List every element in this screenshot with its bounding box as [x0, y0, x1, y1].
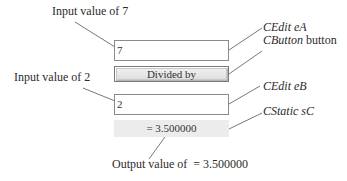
leader-output: [149, 137, 165, 159]
annotation-edit-b-class: CEdit: [263, 79, 291, 93]
annotation-static-c: CStatic sC: [263, 104, 314, 118]
leader-static-c: [229, 113, 262, 129]
annotation-edit-b: CEdit eB: [263, 79, 307, 93]
annotation-output: Output value of = 3.500000: [112, 157, 248, 171]
annotation-static-c-name: sC: [301, 104, 314, 118]
edit-a-field[interactable]: 7: [114, 40, 229, 61]
annotation-button-name: button: [306, 33, 337, 47]
annotation-button: CButton button: [263, 33, 337, 47]
annotation-input-b: Input value of 2: [14, 70, 90, 84]
leader-button: [229, 51, 262, 74]
annotation-edit-a: CEdit eA: [263, 20, 307, 34]
leader-input-b: [83, 88, 115, 101]
annotation-input-a: Input value of 7: [52, 4, 128, 18]
static-c-result: = 3.500000: [114, 120, 229, 137]
annotation-edit-b-name: eB: [294, 79, 307, 93]
leader-input-a: [75, 22, 115, 47]
annotation-button-class: CButton: [263, 33, 303, 47]
annotation-static-c-class: CStatic: [263, 104, 298, 118]
leader-edit-b: [229, 86, 260, 104]
annotation-edit-a-class: CEdit: [263, 20, 291, 34]
leader-edit-a: [229, 28, 262, 50]
edit-b-field[interactable]: 2: [114, 94, 229, 115]
annotation-edit-a-name: eA: [294, 20, 307, 34]
divided-by-button[interactable]: Divided by: [114, 66, 229, 82]
